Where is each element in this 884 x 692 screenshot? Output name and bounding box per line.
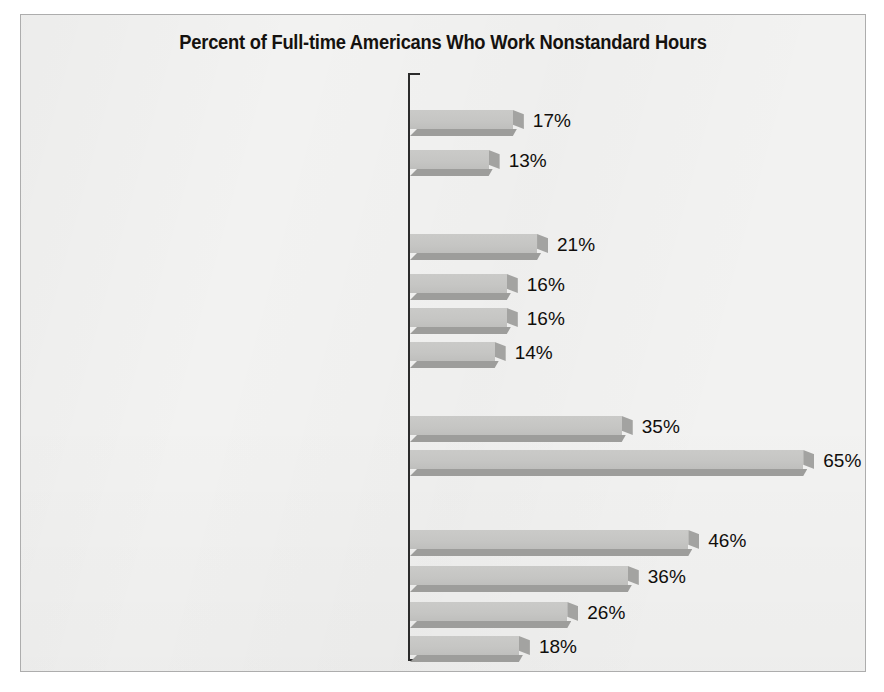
bar	[410, 599, 578, 629]
bar-bottom-face	[410, 169, 493, 176]
bar	[410, 271, 518, 301]
bar-bottom-face	[410, 253, 541, 260]
bar	[410, 633, 530, 663]
bar-bottom-face	[410, 585, 632, 592]
bar-side-face	[495, 342, 506, 361]
bar	[410, 413, 633, 443]
bar-front-face	[410, 450, 803, 469]
bar-front-face	[410, 150, 489, 169]
bar-bottom-face	[410, 361, 499, 368]
bar-side-face	[688, 530, 699, 549]
bar	[410, 147, 500, 177]
bar-value-label: 13%	[509, 147, 547, 174]
bar-side-face	[622, 416, 633, 435]
bar-side-face	[489, 150, 500, 169]
bar-side-face	[567, 602, 578, 621]
bar-bottom-face	[410, 435, 626, 442]
bar-side-face	[519, 636, 530, 655]
bar	[410, 447, 814, 477]
plot-area: SexMen17%Women13%EthnicityBlack21%Latino…	[21, 15, 867, 673]
bar-side-face	[507, 308, 518, 327]
bar-front-face	[410, 636, 519, 655]
bar-bottom-face	[410, 469, 807, 476]
bar-bottom-face	[410, 327, 511, 334]
bar-value-label: 17%	[533, 107, 571, 134]
bar-value-label: 46%	[708, 527, 746, 554]
bar-value-label: 14%	[515, 339, 553, 366]
bar-value-label: 65%	[823, 447, 861, 474]
bar-value-label: 26%	[587, 599, 625, 626]
bar-bottom-face	[410, 129, 517, 136]
bar-bottom-face	[410, 621, 571, 628]
bar-front-face	[410, 234, 537, 253]
bar	[410, 107, 524, 137]
bar-side-face	[803, 450, 814, 469]
chart-figure: Percent of Full-time Americans Who Work …	[20, 14, 866, 672]
bar-bottom-face	[410, 293, 511, 300]
bar-value-label: 36%	[648, 563, 686, 590]
bar-value-label: 18%	[539, 633, 577, 660]
bar-front-face	[410, 110, 513, 129]
bar-side-face	[513, 110, 524, 129]
bar-bottom-face	[410, 655, 523, 662]
bar-front-face	[410, 566, 628, 585]
bar-front-face	[410, 274, 507, 293]
bar	[410, 563, 639, 593]
bar-front-face	[410, 602, 567, 621]
bar-front-face	[410, 530, 688, 549]
bar-front-face	[410, 342, 495, 361]
bar-value-label: 21%	[557, 231, 595, 258]
bar-side-face	[507, 274, 518, 293]
bar-side-face	[537, 234, 548, 253]
bar-side-face	[628, 566, 639, 585]
bar	[410, 339, 506, 369]
bar-value-label: 16%	[527, 305, 565, 332]
bar-front-face	[410, 308, 507, 327]
bar-front-face	[410, 416, 622, 435]
bar	[410, 231, 548, 261]
bar	[410, 527, 699, 557]
bar-value-label: 35%	[642, 413, 680, 440]
bar-bottom-face	[410, 549, 692, 556]
bar	[410, 305, 518, 335]
bar-value-label: 16%	[527, 271, 565, 298]
